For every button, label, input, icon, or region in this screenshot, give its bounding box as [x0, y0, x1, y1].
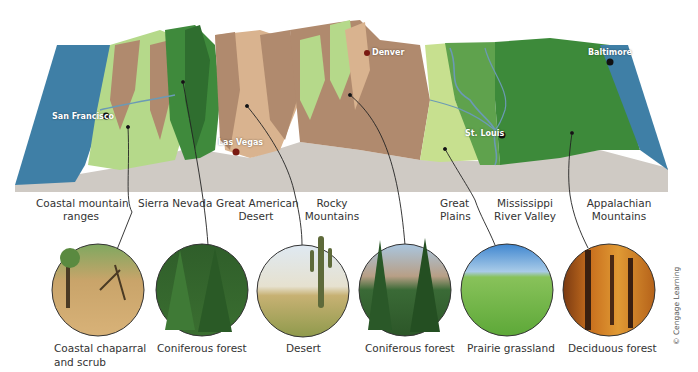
city-label-san-francisco: San Francisco [52, 112, 114, 121]
biome-caption-deciduous-forest: Deciduous forest [568, 341, 657, 355]
region-line: Desert [216, 210, 296, 223]
copyright-credit: © Cengage Learning [672, 267, 681, 345]
region-line: Mountains [584, 210, 654, 223]
biome-diagram: San Francisco Las Vegas Denver St. Louis… [0, 0, 698, 372]
biome-caption-coastal-chaparral: Coastal chaparral and scrub [54, 341, 146, 369]
region-line: River Valley [490, 210, 560, 223]
region-label-rocky-mountains: Rocky Mountains [302, 197, 362, 223]
city-label-denver: Denver [372, 48, 404, 57]
caption-line: Desert [286, 341, 321, 355]
region-label-mississippi-river-valley: Mississippi River Valley [490, 197, 560, 223]
caption-line: Prairie grassland [467, 341, 555, 355]
region-line: Sierra Nevada [138, 197, 208, 210]
region-line: Rocky [302, 197, 362, 210]
biome-caption-desert: Desert [286, 341, 321, 355]
region-line: Mountains [302, 210, 362, 223]
city-label-baltimore: Baltimore [588, 48, 632, 57]
region-label-appalachian-mountains: Appalachian Mountains [584, 197, 654, 223]
biome-photo-deciduous-forest [563, 244, 655, 336]
biome-caption-coniferous-forest-1: Coniferous forest [157, 341, 247, 355]
city-label-las-vegas: Las Vegas [218, 138, 263, 147]
city-label-st-louis: St. Louis [465, 129, 504, 138]
caption-line: Deciduous forest [568, 341, 657, 355]
region-line: Great American [216, 197, 296, 210]
region-label-coastal-mountain-ranges: Coastal mountain ranges [36, 197, 126, 223]
biome-photo-coniferous-forest-rocky [359, 238, 451, 336]
biome-caption-prairie-grassland: Prairie grassland [467, 341, 555, 355]
region-line: Plains [440, 210, 480, 223]
biome-caption-coniferous-forest-2: Coniferous forest [365, 341, 455, 355]
biome-photo-coniferous-forest-sierra [156, 244, 248, 336]
region-line: Appalachian [584, 197, 654, 210]
region-label-great-american-desert: Great American Desert [216, 197, 296, 223]
caption-line: Coniferous forest [365, 341, 455, 355]
city-dot-las-vegas [233, 149, 240, 156]
biome-photo-coastal-chaparral [52, 244, 144, 336]
caption-line: Coniferous forest [157, 341, 247, 355]
region-line: Great [440, 197, 480, 210]
region-label-great-plains: Great Plains [440, 197, 480, 223]
region-label-sierra-nevada: Sierra Nevada [138, 197, 208, 210]
biome-photo-prairie-grassland [461, 244, 553, 336]
region-line: ranges [36, 210, 126, 223]
biome-photo-desert [257, 236, 349, 337]
caption-line: Coastal chaparral [54, 341, 146, 355]
region-line: Mississippi [490, 197, 560, 210]
region-line: Coastal mountain [36, 197, 126, 210]
caption-line: and scrub [54, 355, 146, 369]
city-dot-baltimore [607, 59, 614, 66]
city-dot-denver [364, 50, 370, 56]
